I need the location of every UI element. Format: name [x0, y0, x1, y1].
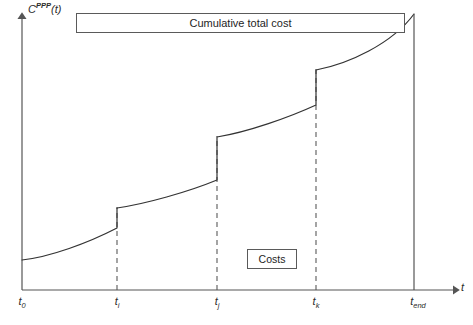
- y-axis-label-superscript: PPP: [36, 1, 51, 10]
- chart-title-box: Cumulative total cost: [76, 13, 405, 33]
- x-tick-t0-sub: 0: [21, 301, 25, 310]
- x-tick-tend-sub: end: [413, 301, 426, 310]
- chart-title-text: Cumulative total cost: [189, 17, 291, 29]
- x-tick-ti: ti: [115, 296, 120, 310]
- y-axis-label: CPPP(t): [28, 2, 61, 15]
- costs-label-box: Costs: [247, 249, 297, 269]
- x-tick-tj-sub: j: [218, 301, 220, 310]
- x-axis-label: t: [461, 282, 464, 293]
- chart-canvas: [0, 0, 473, 325]
- x-tick-tk: tk: [313, 296, 320, 310]
- x-tick-tj: tj: [215, 296, 220, 310]
- x-tick-tend: tend: [410, 296, 426, 310]
- x-tick-ti-sub: i: [118, 301, 120, 310]
- cumulative-cost-curve: [22, 14, 414, 260]
- y-axis-label-base: C: [28, 3, 36, 15]
- costs-label-text: Costs: [259, 253, 286, 265]
- x-tick-t0: t0: [18, 296, 25, 310]
- chart-figure: CPPP(t) t t0 ti tj tk tend Cumulative to…: [0, 0, 473, 325]
- x-tick-tk-sub: k: [316, 301, 320, 310]
- y-axis-label-arg: (t): [51, 3, 61, 15]
